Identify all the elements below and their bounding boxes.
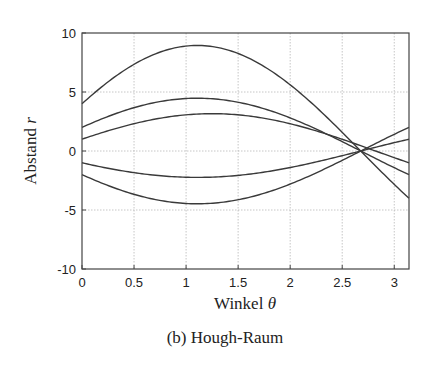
y-axis-title: Abstand r <box>21 117 40 185</box>
y-tick-label: 10 <box>62 26 76 41</box>
y-tick-label: -5 <box>64 203 76 218</box>
x-axis-title: Winkel θ <box>214 294 276 313</box>
x-tick-label: 2.5 <box>333 275 351 290</box>
hough-space-chart: 00.511.522.53 -10-50510 Winkel θ Abstand… <box>0 0 433 366</box>
figure-caption: (b) Hough-Raum <box>167 328 284 347</box>
sinusoid-curve <box>82 114 409 163</box>
x-tick-label: 0 <box>78 275 85 290</box>
x-tick-label: 3 <box>391 275 398 290</box>
y-tick-label: 0 <box>69 144 76 159</box>
x-tick-label: 2 <box>287 275 294 290</box>
x-tick-label: 1.5 <box>229 275 247 290</box>
y-tick-label: 5 <box>69 85 76 100</box>
y-tick-label: -10 <box>57 262 76 277</box>
curves <box>82 45 409 203</box>
sinusoid-curve <box>82 98 409 174</box>
sinusoid-curve <box>82 127 409 203</box>
x-tick-label: 0.5 <box>125 275 143 290</box>
x-tick-label: 1 <box>182 275 189 290</box>
